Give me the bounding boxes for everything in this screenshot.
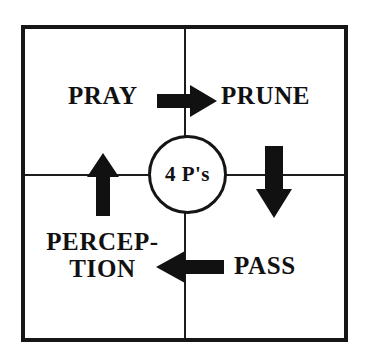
quadrant-label-perception: PERCEP- TION xyxy=(45,228,160,282)
arrow-right-icon xyxy=(157,85,217,117)
quadrant-label-pass: PASS xyxy=(234,252,296,279)
center-circle: 4 P's xyxy=(148,135,227,214)
arrow-down-icon xyxy=(256,146,292,218)
arrow-up-icon xyxy=(87,153,119,216)
four-ps-diagram: PRAY PRUNE PASS PERCEP- TION 4 P's xyxy=(0,0,369,363)
quadrant-label-perception-line-1: PERCEP- xyxy=(46,228,159,255)
center-circle-label: 4 P's xyxy=(165,164,210,185)
quadrant-label-pray: PRAY xyxy=(68,82,138,109)
arrow-left-icon xyxy=(156,251,224,283)
quadrant-label-perception-line-2: TION xyxy=(45,255,160,282)
quadrant-label-prune: PRUNE xyxy=(221,82,310,109)
